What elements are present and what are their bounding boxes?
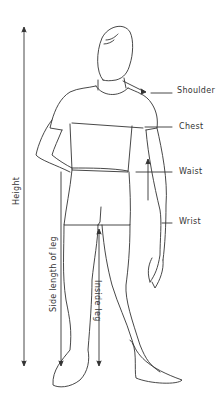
shirt — [50, 86, 157, 172]
label-side-leg: Side length of leg — [49, 236, 58, 312]
shorts — [64, 170, 130, 225]
label-chest: Chest — [179, 122, 203, 131]
hair-mark — [104, 34, 118, 44]
left-arm — [36, 120, 72, 172]
label-wrist: Wrist — [179, 217, 201, 226]
collar — [96, 86, 128, 95]
chest-line — [72, 123, 143, 128]
label-waist: Waist — [179, 167, 202, 176]
right-hand — [148, 258, 163, 288]
body-figure — [0, 0, 224, 407]
right-leg — [102, 225, 182, 383]
head-outline — [98, 26, 133, 80]
label-inside-leg: Inside leg — [93, 280, 102, 322]
neck — [98, 78, 126, 90]
label-shoulder: Shoulder — [177, 86, 215, 95]
right-arm — [146, 128, 166, 282]
label-height: Height — [12, 177, 21, 205]
